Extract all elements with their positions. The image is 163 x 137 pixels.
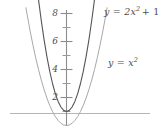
curve-label-suffix-1: + 1	[140, 6, 161, 17]
y-tick-label-6: 6	[44, 37, 58, 46]
y-tick-label-8: 8	[44, 9, 58, 18]
plot-canvas	[0, 0, 163, 137]
curve-label-2x-squared-plus-1: y = 2x2+ 1	[104, 7, 161, 17]
curve-label-x-squared: y = x2	[108, 58, 138, 68]
y-tick-label-2: 2	[44, 93, 58, 102]
parabola-comparison-figure: 8 6 4 2 y = 2x2+ 1 y = x2	[0, 0, 163, 137]
y-tick-label-4: 4	[44, 65, 58, 74]
curve-label-exponent-2: 2	[134, 56, 138, 64]
curve-label-lhs-1: y = 2x	[104, 6, 136, 17]
curve-label-lhs-2: y = x	[108, 57, 134, 68]
